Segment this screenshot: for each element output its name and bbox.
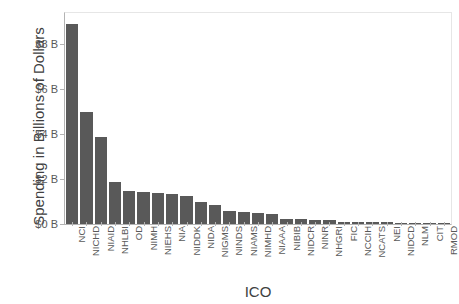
x-axis-tick-mark — [201, 222, 202, 226]
x-axis-tick-mark — [101, 222, 102, 226]
x-axis-tick-label: NCCIH — [362, 226, 373, 256]
x-axis-tick-mark — [415, 222, 416, 226]
x-axis-tick-label: FIC — [348, 226, 359, 241]
x-axis-tick-label: NIEHS — [162, 226, 173, 255]
x-axis-tick-mark — [329, 222, 330, 226]
x-axis-tick-mark — [187, 222, 188, 226]
x-axis-tick-label: NCATS — [376, 226, 387, 258]
x-axis-tick-label: NCI — [76, 226, 87, 242]
y-axis-title: Spending in Billions of Dollars — [30, 14, 47, 239]
bar — [137, 192, 149, 224]
bar — [109, 182, 121, 224]
x-axis-tick-mark — [215, 222, 216, 226]
x-axis-tick-label: NINDS — [233, 226, 244, 256]
plot-area — [64, 12, 452, 225]
x-axis-tick-label: NICHD — [90, 226, 101, 256]
x-axis-tick-mark — [129, 222, 130, 226]
x-axis-tick-mark — [401, 222, 402, 226]
bar — [166, 194, 178, 224]
x-axis-tick-label: NIGMS — [219, 226, 230, 257]
x-axis-tick-mark — [444, 222, 445, 226]
x-axis-tick-label: NIDCR — [305, 226, 316, 256]
x-axis-tick-group: NCINICHDNIAIDNHLBIODNIMHNIEHSNIANIDDKNID… — [65, 226, 451, 282]
x-axis-tick-label: NLM — [419, 226, 430, 246]
x-axis-tick-label: NIBIB — [291, 226, 302, 251]
x-axis-tick-mark — [372, 222, 373, 226]
x-axis-tick-mark — [430, 222, 431, 226]
x-axis-tick-label: NIAAA — [276, 226, 287, 255]
x-axis-tick-mark — [229, 222, 230, 226]
x-axis-tick-label: NIDA — [205, 226, 216, 249]
x-axis-tick-label: NIDDK — [191, 226, 202, 256]
bar — [152, 193, 164, 224]
x-axis-tick-mark — [258, 222, 259, 226]
x-axis-tick-mark — [387, 222, 388, 226]
x-axis-tick-label: NIDCD — [405, 226, 416, 256]
x-axis-tick-mark — [158, 222, 159, 226]
bar — [66, 24, 78, 224]
x-axis-tick-mark — [344, 222, 345, 226]
x-axis-tick-mark — [86, 222, 87, 226]
x-axis-tick-mark — [244, 222, 245, 226]
x-axis-tick-mark — [272, 222, 273, 226]
bar — [195, 202, 207, 224]
x-axis-tick-mark — [115, 222, 116, 226]
x-axis-tick-mark — [287, 222, 288, 226]
bar — [95, 137, 107, 224]
x-axis-tick-label: NHGRI — [333, 226, 344, 257]
bar-series — [65, 13, 451, 224]
x-axis-tick-label: NIA — [176, 226, 187, 242]
x-axis-tick-mark — [358, 222, 359, 226]
x-axis-tick-label: NHLBI — [119, 226, 130, 254]
x-axis-tick-label: NIAMS — [248, 226, 259, 256]
bar — [180, 196, 192, 224]
bar — [80, 112, 92, 224]
x-axis-tick-label: NEI — [391, 226, 402, 242]
x-axis-tick-label: OD — [133, 226, 144, 240]
x-axis-tick-mark — [72, 222, 73, 226]
x-axis-tick-label: RMOD — [448, 226, 459, 255]
x-axis-tick-mark — [144, 222, 145, 226]
x-axis-tick-mark — [172, 222, 173, 226]
x-axis-tick-mark — [315, 222, 316, 226]
x-axis-tick-mark — [301, 222, 302, 226]
x-axis-tick-label: NINR — [319, 226, 330, 249]
x-axis-tick-label: NIMHD — [262, 226, 273, 257]
bar — [123, 191, 135, 224]
x-axis-tick-label: NIAID — [105, 226, 116, 251]
x-axis-title: ICO — [64, 283, 452, 300]
x-axis-tick-label: CIT — [434, 226, 445, 241]
x-axis-tick-label: NIMH — [148, 226, 159, 250]
